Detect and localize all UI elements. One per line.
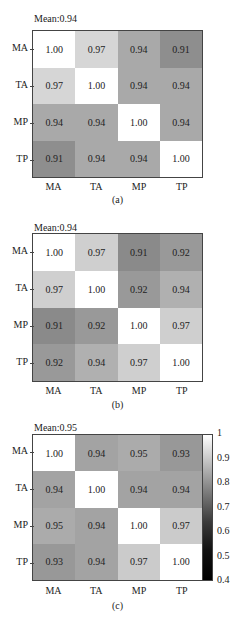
y-tick-label: MP — [6, 116, 28, 127]
heatmap-cell: 0.94 — [75, 508, 117, 544]
x-tick-label: MA — [32, 385, 75, 396]
heatmap-cell: 0.91 — [160, 31, 202, 68]
heatmap-cell: 1.00 — [160, 344, 202, 381]
colorbar-tick-label: 1 — [217, 427, 222, 438]
heatmap-cell: 0.94 — [118, 141, 160, 178]
y-tick-mark — [30, 452, 34, 453]
subfigure-caption: (a) — [0, 194, 235, 205]
heatmap-cell: 1.00 — [160, 544, 202, 580]
subfigure-caption: (b) — [0, 399, 235, 410]
heatmap-cell: 0.92 — [160, 234, 202, 271]
heatmap-cell: 0.94 — [75, 104, 117, 141]
heatmap-cell: 1.00 — [118, 308, 160, 345]
x-tick-label: MA — [32, 181, 75, 192]
heatmap-cell: 0.97 — [75, 31, 117, 68]
y-tick-mark — [30, 563, 34, 564]
colorbar-tick-label: 0.7 — [217, 501, 230, 512]
x-tick-label: MP — [118, 585, 161, 596]
heatmap-cell: 0.91 — [33, 308, 75, 345]
heatmap-cell: 1.00 — [118, 104, 160, 141]
heatmap-cell: 1.00 — [75, 471, 117, 507]
y-tick-mark — [30, 289, 34, 290]
heatmap-cell: 0.94 — [75, 435, 117, 471]
colorbar-tick-label: 0.6 — [217, 525, 230, 536]
y-tick-mark — [30, 160, 34, 161]
heatmap-matrix: 1.000.970.910.920.971.000.920.940.910.92… — [32, 233, 203, 382]
y-tick-mark — [30, 363, 34, 364]
heatmap-cell: 0.94 — [75, 344, 117, 381]
y-tick-label: MP — [6, 519, 28, 530]
chart-title: Mean:0.95 — [34, 422, 77, 433]
colorbar-tick-label: 0.9 — [217, 452, 230, 463]
x-tick-label: MP — [118, 181, 161, 192]
y-tick-mark — [30, 86, 34, 87]
heatmap-cell: 0.94 — [160, 104, 202, 141]
heatmap-cell: 0.92 — [118, 271, 160, 308]
heatmap-cell: 0.97 — [160, 508, 202, 544]
heatmap-cell: 0.94 — [33, 471, 75, 507]
y-tick-label: MA — [6, 245, 28, 256]
heatmap-cell: 0.93 — [33, 544, 75, 580]
heatmap-matrix: 1.000.940.950.930.941.000.940.940.950.94… — [32, 434, 203, 581]
heatmap-cell: 0.94 — [160, 271, 202, 308]
heatmap-cell: 0.97 — [33, 271, 75, 308]
heatmap-cell: 1.00 — [33, 234, 75, 271]
colorbar-tick-label: 0.8 — [217, 476, 230, 487]
heatmap-cell: 1.00 — [75, 271, 117, 308]
heatmap-cell: 1.00 — [118, 508, 160, 544]
x-tick-label: TA — [75, 385, 118, 396]
chart-title: Mean:0.94 — [34, 13, 77, 24]
heatmap-cell: 0.94 — [118, 471, 160, 507]
x-tick-label: TP — [160, 181, 203, 192]
heatmap-cell: 0.93 — [160, 435, 202, 471]
heatmap-matrix: 1.000.970.940.910.971.000.940.940.940.94… — [32, 30, 203, 178]
y-tick-label: TP — [6, 556, 28, 567]
y-tick-label: TA — [6, 282, 28, 293]
heatmap-cell: 0.97 — [33, 68, 75, 105]
heatmap-cell: 0.97 — [118, 544, 160, 580]
y-tick-mark — [30, 526, 34, 527]
heatmap-cell: 0.94 — [75, 544, 117, 580]
heatmap-cell: 0.94 — [118, 31, 160, 68]
heatmap-cell: 0.94 — [160, 471, 202, 507]
heatmap-cell: 1.00 — [75, 68, 117, 105]
colorbar-tick-label: 0.4 — [217, 574, 230, 585]
y-tick-mark — [30, 326, 34, 327]
x-tick-label: TA — [75, 585, 118, 596]
y-tick-mark — [30, 49, 34, 50]
y-tick-label: MA — [6, 445, 28, 456]
y-tick-label: TA — [6, 79, 28, 90]
y-tick-label: TA — [6, 482, 28, 493]
heatmap-cell: 1.00 — [33, 31, 75, 68]
heatmap-cell: 0.97 — [118, 344, 160, 381]
colorbar — [202, 434, 213, 581]
heatmap-cell: 0.95 — [118, 435, 160, 471]
heatmap-cell: 0.94 — [118, 68, 160, 105]
y-tick-label: TP — [6, 153, 28, 164]
subfigure-caption: (c) — [0, 600, 235, 611]
x-tick-label: MA — [32, 585, 75, 596]
colorbar-tick-label: 0.5 — [217, 550, 230, 561]
y-tick-label: TP — [6, 356, 28, 367]
x-tick-label: TP — [160, 585, 203, 596]
y-tick-label: MP — [6, 319, 28, 330]
x-tick-label: MP — [118, 385, 161, 396]
heatmap-cell: 0.91 — [118, 234, 160, 271]
y-tick-mark — [30, 123, 34, 124]
heatmap-cell: 0.94 — [160, 68, 202, 105]
y-tick-mark — [30, 252, 34, 253]
heatmap-cell: 0.92 — [75, 308, 117, 345]
y-tick-label: MA — [6, 42, 28, 53]
y-tick-mark — [30, 489, 34, 490]
heatmap-cell: 0.95 — [33, 508, 75, 544]
x-tick-label: TA — [75, 181, 118, 192]
heatmap-cell: 0.92 — [33, 344, 75, 381]
heatmap-cell: 0.91 — [33, 141, 75, 178]
heatmap-cell: 1.00 — [33, 435, 75, 471]
heatmap-cell: 1.00 — [160, 141, 202, 178]
heatmap-cell: 0.94 — [33, 104, 75, 141]
x-tick-label: TP — [160, 385, 203, 396]
heatmap-cell: 0.97 — [160, 308, 202, 345]
heatmap-cell: 0.97 — [75, 234, 117, 271]
chart-title: Mean:0.94 — [34, 222, 77, 233]
